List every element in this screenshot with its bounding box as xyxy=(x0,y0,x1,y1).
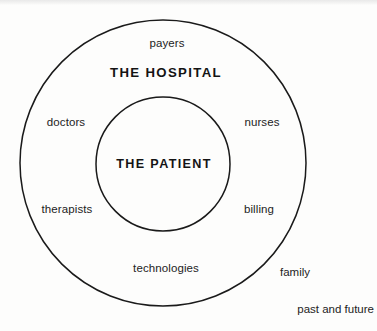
zone-title-patient: THE PATIENT xyxy=(116,158,212,171)
ring-label-billing: billing xyxy=(244,204,274,216)
ring-label-payers: payers xyxy=(149,38,184,50)
diagram-canvas: payers THE HOSPITAL doctors nurses THE P… xyxy=(0,0,377,331)
ring-label-therapists: therapists xyxy=(42,204,93,216)
ring-label-nurses: nurses xyxy=(244,117,279,129)
outside-label-past-and-future: past and future xyxy=(297,304,374,316)
ring-label-technologies: technologies xyxy=(133,263,199,275)
ring-label-doctors: doctors xyxy=(47,117,85,129)
outside-label-family: family xyxy=(280,267,310,279)
zone-title-hospital: THE HOSPITAL xyxy=(110,66,222,79)
